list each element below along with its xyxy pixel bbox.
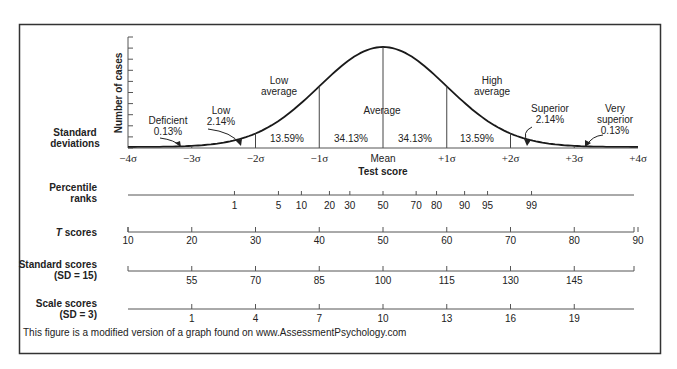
scale-tick-label: 19 — [569, 313, 581, 324]
y-axis-label: Number of cases — [113, 52, 124, 133]
standard-scores-row-label-2: (SD = 15) — [54, 270, 97, 281]
standard-scores-row-label-1: Standard scores — [19, 259, 98, 270]
region-high-average-percent: 13.59% — [460, 133, 494, 144]
figure-caption: This figure is a modified version of a g… — [23, 327, 406, 338]
scale-scores-row-label-1: Scale scores — [36, 298, 98, 309]
scale-tick-label: 80 — [569, 235, 581, 246]
sigma-tick-label: −3σ — [183, 152, 201, 164]
region-low-percent: 2.14% — [207, 116, 235, 127]
scale-tick-label: 16 — [505, 313, 517, 324]
region-average-label: Average — [363, 105, 401, 116]
region-very-superior-percent: 0.13% — [601, 125, 629, 136]
region-superior-label: Superior — [531, 103, 569, 114]
scale-tick-label: 70 — [250, 275, 262, 286]
sd-row-label-1: Standard — [53, 127, 96, 138]
percentile-tick-label: 5 — [276, 200, 282, 211]
scale-tick-label: 85 — [314, 275, 326, 286]
x-axis-title: Test score — [358, 166, 408, 177]
t-scores-row-label: T scores — [56, 227, 98, 238]
sigma-tick-label: +1σ — [438, 152, 456, 164]
normal-curve-figure: Number of cases Deficient 0.13% Low 2.14… — [0, 0, 677, 369]
scale-tick-label: 1 — [189, 313, 195, 324]
sd-row-label-2: deviations — [50, 138, 100, 149]
percentile-tick-label: 95 — [482, 200, 494, 211]
region-deficient-label: Deficient — [149, 115, 188, 126]
region-low-average-label-1: Low — [270, 75, 289, 86]
percentile-tick-label: 99 — [526, 200, 538, 211]
region-high-average-label-2: average — [474, 86, 511, 97]
scale-scores-row-label-2: (SD = 3) — [59, 309, 97, 320]
sigma-tick-label: Mean — [370, 153, 395, 164]
region-low-label: Low — [212, 105, 231, 116]
scale-tick-label: 90 — [632, 235, 644, 246]
percentile-tick-label: 70 — [411, 200, 423, 211]
percentile-tick-label: 30 — [344, 200, 356, 211]
scale-tick-label: 115 — [439, 275, 455, 286]
region-low-average-label-2: average — [261, 86, 298, 97]
scale-tick-label: 13 — [441, 313, 453, 324]
sigma-tick-label: +2σ — [502, 152, 520, 164]
scale-tick-label: 50 — [377, 235, 389, 246]
region-avg-right-percent: 34.13% — [398, 133, 432, 144]
region-superior-percent: 2.14% — [536, 114, 564, 125]
percentile-row-label-2: ranks — [70, 193, 97, 204]
region-very-superior-label-1: Very — [605, 103, 625, 114]
sigma-tick-labels: −4σ−3σ−2σ−1σMean+1σ+2σ+3σ+4σ — [119, 152, 647, 164]
scale-tick-label: 70 — [505, 235, 517, 246]
sigma-tick-label: +3σ — [565, 152, 583, 164]
percentile-row-label-1: Percentile — [49, 182, 97, 193]
region-avg-left-percent: 34.13% — [334, 133, 368, 144]
sigma-tick-label: −1σ — [310, 152, 328, 164]
region-low-average-percent: 13.59% — [270, 133, 304, 144]
percentile-tick-label: 20 — [324, 200, 336, 211]
percentile-tick-label: 1 — [232, 200, 238, 211]
scale-tick-label: 60 — [441, 235, 453, 246]
scale-tick-label: 40 — [314, 235, 326, 246]
percentile-tick-label: 50 — [377, 200, 389, 211]
region-very-superior-label-2: superior — [597, 114, 634, 125]
scale-tick-label: 10 — [377, 313, 389, 324]
scale-tick-label: 7 — [316, 313, 322, 324]
sigma-tick-label: −4σ — [119, 152, 137, 164]
scale-tick-label: 55 — [186, 275, 198, 286]
scale-tick-label: 30 — [250, 235, 262, 246]
scale-tick-label: 145 — [566, 275, 583, 286]
scale-tick-label: 10 — [122, 235, 134, 246]
scale-tick-label: 100 — [375, 275, 392, 286]
sigma-tick-label: +4σ — [629, 152, 647, 164]
percentile-tick-label: 80 — [431, 200, 443, 211]
sigma-tick-label: −2σ — [247, 152, 265, 164]
scale-tick-label: 20 — [186, 235, 198, 246]
scale-tick-label: 130 — [502, 275, 519, 286]
region-deficient-percent: 0.13% — [154, 126, 182, 137]
percentile-tick-label: 10 — [296, 200, 308, 211]
percentile-tick-label: 90 — [459, 200, 471, 211]
region-high-average-label-1: High — [482, 75, 503, 86]
scale-tick-label: 4 — [253, 313, 259, 324]
